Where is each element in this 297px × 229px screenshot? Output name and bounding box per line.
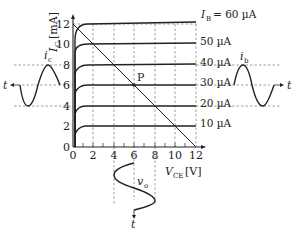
ib-curve-labels: I B = 60 µA 50 µA 40 µA 30 µA 20 µA 10 µ… <box>200 8 257 129</box>
x-tick-labels: 0 2 4 6 8 10 12 <box>70 149 204 162</box>
svg-text:= 60 µA: = 60 µA <box>213 8 257 20</box>
svg-text:8: 8 <box>152 149 159 162</box>
svg-text:6: 6 <box>131 149 138 162</box>
svg-text:4: 4 <box>63 100 70 113</box>
svg-text:2: 2 <box>90 149 97 162</box>
svg-text:10: 10 <box>168 149 182 162</box>
x-axis-label: V CE [V] <box>165 165 202 180</box>
svg-text:t: t <box>287 79 292 92</box>
vo-waveform: t v o <box>114 163 155 229</box>
svg-text:t: t <box>3 79 8 92</box>
svg-text:[V]: [V] <box>185 165 202 178</box>
x-axis-ticks <box>83 143 185 147</box>
svg-text:0: 0 <box>70 149 77 162</box>
svg-text:v: v <box>137 175 144 188</box>
svg-text:10 µA: 10 µA <box>200 117 232 129</box>
svg-text:6: 6 <box>63 79 70 92</box>
svg-text:50 µA: 50 µA <box>200 35 232 47</box>
svg-text:o: o <box>144 182 148 190</box>
curve-50uA <box>75 43 196 147</box>
svg-text:b: b <box>244 57 249 65</box>
svg-text:4: 4 <box>111 149 118 162</box>
svg-text:C: C <box>54 42 62 47</box>
svg-text:i: i <box>240 50 244 63</box>
svg-text:t: t <box>131 218 136 229</box>
svg-text:B: B <box>206 15 211 23</box>
svg-text:i: i <box>44 49 48 62</box>
svg-text:CE: CE <box>173 172 183 180</box>
ib-time-arrow-icon <box>280 83 284 87</box>
svg-text:2: 2 <box>63 120 70 133</box>
svg-text:12: 12 <box>189 149 203 162</box>
ib-waveform: t i b <box>234 50 292 106</box>
svg-text:30 µA: 30 µA <box>200 76 232 88</box>
operating-point-p <box>132 83 136 87</box>
ic-waveform: t i c <box>3 49 60 106</box>
ic-time-arrow-icon <box>10 83 14 87</box>
svg-text:[mA]: [mA] <box>47 12 60 39</box>
svg-text:20 µA: 20 µA <box>200 97 232 109</box>
y-axis-label: I C [mA] <box>47 12 62 53</box>
svg-text:c: c <box>48 56 52 64</box>
svg-text:40 µA: 40 µA <box>200 56 232 68</box>
y-axis-arrow-icon <box>71 14 75 19</box>
transistor-characteristics-diagram: P 0 2 4 6 8 10 12 0 2 4 6 8 10 12 I C [m… <box>0 0 297 229</box>
point-label: P <box>137 71 145 84</box>
svg-text:8: 8 <box>63 59 70 72</box>
